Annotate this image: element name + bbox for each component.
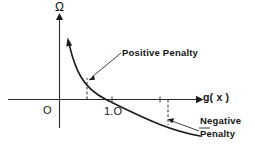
y-axis-group	[56, 13, 63, 128]
curve-arrowhead	[66, 38, 72, 47]
positive-penalty-leader-arrowhead	[88, 76, 95, 81]
positive-penalty-label: Positive Penalty	[122, 48, 198, 59]
positive-penalty-leader-group	[88, 53, 121, 80]
negative-penalty-label: Negative Penalty	[200, 115, 241, 141]
negative-penalty-label-line-1: Negative	[200, 115, 241, 128]
negative-penalty-label-line-2: Penalty	[200, 128, 241, 141]
omega-symbol: Ω	[55, 1, 64, 14]
origin-label: O	[43, 104, 52, 116]
penalty-curve	[70, 46, 201, 137]
positive-penalty-leader-line	[92, 53, 121, 77]
penalty-function-figure: Ω g( x ) O 1.O Positive Penalty Negative…	[0, 0, 255, 148]
x-axis-label: g( x )	[203, 92, 229, 104]
negative-penalty-leader-arrowhead	[168, 118, 175, 123]
x-tick-label-one: 1.O	[104, 105, 122, 117]
